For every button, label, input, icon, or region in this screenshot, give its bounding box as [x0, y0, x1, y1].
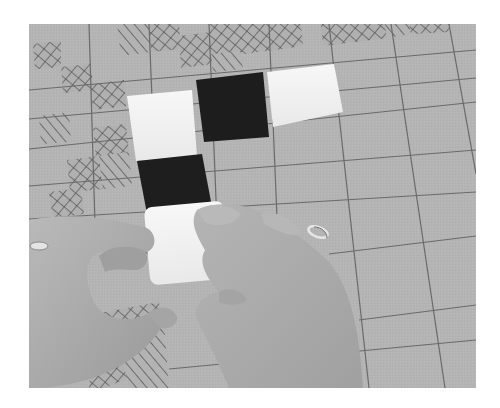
tile-black-1 — [196, 72, 269, 142]
ring-left — [30, 242, 48, 250]
tile-white-1 — [127, 90, 197, 161]
photo-scene — [29, 24, 476, 388]
photo: Hands arranging black and white tiles on… — [29, 24, 476, 388]
